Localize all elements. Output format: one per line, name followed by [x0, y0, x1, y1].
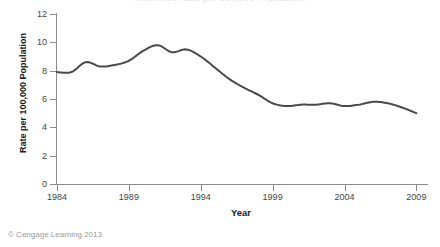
chart-figure: Homicide Rate per 100,000 Population Rat…: [0, 0, 440, 247]
line-series-rate: [57, 45, 416, 113]
copyright-credit: © Cengage Learning 2013: [8, 230, 102, 239]
x-axis-title: Year: [57, 207, 425, 218]
